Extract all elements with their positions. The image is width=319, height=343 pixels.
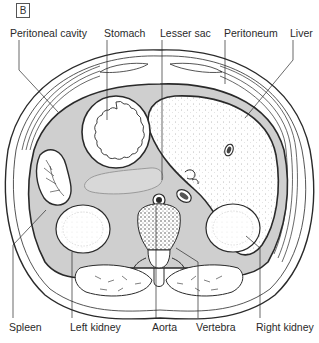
right-kidney [206, 204, 260, 252]
left-kidney [56, 205, 110, 253]
cross-section-diagram [0, 0, 319, 343]
stomach [82, 96, 150, 168]
